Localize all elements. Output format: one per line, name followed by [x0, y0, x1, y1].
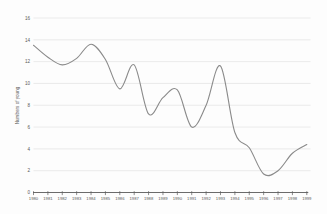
- y-tick-label: 8: [27, 103, 30, 108]
- line-chart-svg: 0246810121416198019811982198319841985198…: [0, 0, 327, 214]
- x-tick-label: 1983: [72, 196, 82, 201]
- x-tick-label: 1995: [245, 196, 255, 201]
- x-tick-label: 1980: [29, 196, 39, 201]
- x-tick-label: 1996: [259, 196, 269, 201]
- y-tick-label: 14: [25, 38, 31, 43]
- x-tick-label: 1981: [43, 196, 53, 201]
- y-tick-label: 6: [27, 125, 30, 130]
- x-tick-label: 1991: [187, 196, 197, 201]
- y-tick-label: 4: [27, 147, 30, 152]
- x-tick-label: 1989: [158, 196, 168, 201]
- y-axis-title: Numbers of young: [15, 86, 20, 124]
- x-tick-label: 1985: [101, 196, 111, 201]
- x-tick-label: 1992: [201, 196, 211, 201]
- x-tick-label: 1994: [230, 196, 240, 201]
- y-tick-label: 0: [27, 190, 30, 195]
- y-tick-label: 16: [25, 16, 31, 21]
- x-tick-label: 1997: [273, 196, 283, 201]
- x-tick-label: 1986: [115, 196, 125, 201]
- y-tick-label: 12: [25, 59, 31, 64]
- x-tick-label: 1988: [144, 196, 154, 201]
- y-tick-label: 10: [25, 81, 31, 86]
- data-series-line: [34, 44, 307, 175]
- y-tick-label: 2: [27, 168, 30, 173]
- x-tick-label: 1993: [216, 196, 226, 201]
- x-tick-label: 1998: [288, 196, 298, 201]
- line-chart: 0246810121416198019811982198319841985198…: [0, 0, 327, 214]
- x-tick-label: 1982: [58, 196, 68, 201]
- x-tick-label: 1990: [173, 196, 183, 201]
- x-tick-label: 1999: [302, 196, 312, 201]
- x-tick-label: 1987: [130, 196, 140, 201]
- x-tick-label: 1984: [86, 196, 96, 201]
